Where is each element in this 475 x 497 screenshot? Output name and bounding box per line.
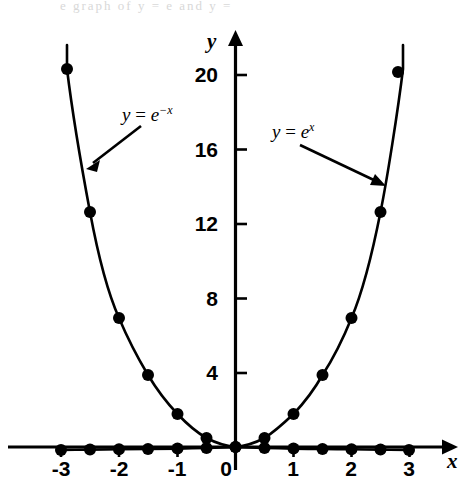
- y-tick-label-4: 4: [176, 362, 218, 383]
- negexp-exponent: −x: [159, 103, 172, 117]
- x-tick-label-minus-3: -3: [41, 458, 81, 479]
- negexp-equals: =: [130, 104, 150, 125]
- graph-canvas: [0, 0, 475, 497]
- x-tick-label-minus-2: -2: [99, 458, 139, 479]
- y-axis-label: y: [207, 31, 216, 52]
- exp-equals: =: [280, 121, 300, 142]
- exp-exponent: x: [309, 120, 314, 134]
- curve-label-exponential: y = ex: [272, 121, 314, 141]
- curve-exp-markers: [55, 66, 404, 456]
- curve-label-negative-exponential: y = e−x: [122, 104, 173, 124]
- y-tick-marks: [236, 75, 248, 373]
- x-tick-label-0: 0: [206, 458, 246, 479]
- curve-negexp-markers: [61, 63, 415, 456]
- y-axis-arrowhead: [228, 30, 243, 46]
- y-tick-label-12: 12: [176, 213, 218, 234]
- y-tick-label-16: 16: [176, 139, 218, 160]
- curve-y-equals-e-to-minus-x: [61, 45, 415, 456]
- curve-y-equals-e-to-x: [55, 45, 404, 456]
- x-tick-label-1: 1: [273, 458, 313, 479]
- x-tick-label-2: 2: [331, 458, 371, 479]
- negexp-base: e: [151, 104, 159, 125]
- y-tick-label-8: 8: [176, 288, 218, 309]
- x-tick-label-3: 3: [389, 458, 429, 479]
- axes: [8, 30, 458, 470]
- y-tick-label-20: 20: [176, 64, 218, 85]
- x-tick-label-minus-1: -1: [157, 458, 197, 479]
- exponential-graph-figure: e graph of y = e and y =: [0, 0, 475, 497]
- exp-base: e: [301, 121, 309, 142]
- right-arrowhead: [370, 174, 386, 186]
- x-axis-label: x: [447, 451, 458, 472]
